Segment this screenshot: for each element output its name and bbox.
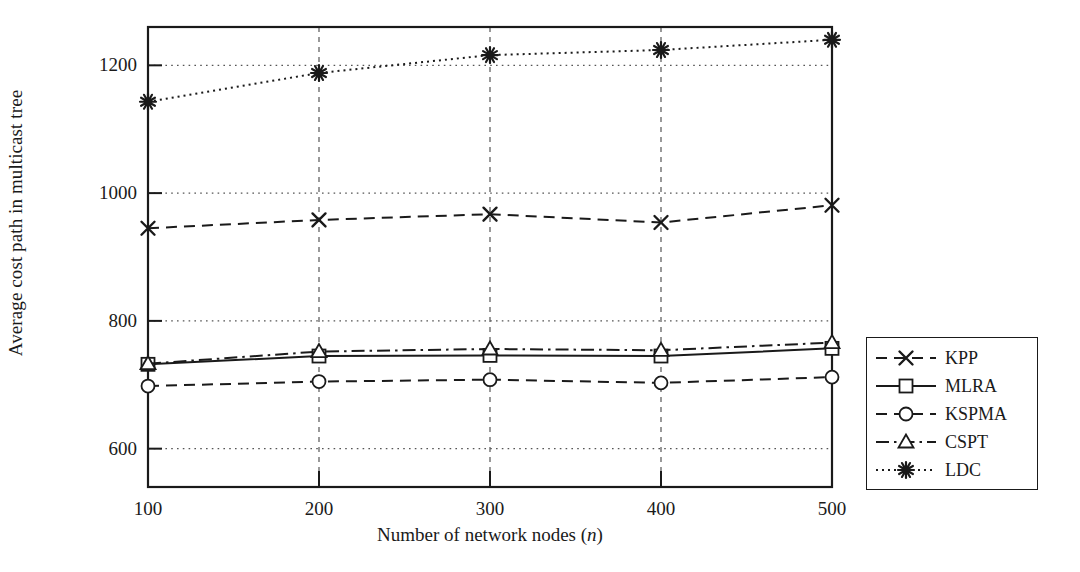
legend-swatch-x-icon [874, 347, 938, 369]
marker-square [900, 380, 913, 393]
legend-label: CSPT [938, 433, 988, 451]
chart-canvas [148, 27, 832, 487]
legend-item-cspt[interactable]: CSPT [867, 428, 1037, 456]
marker-asterisk [311, 65, 327, 81]
legend-item-ldc[interactable]: LDC [867, 456, 1037, 484]
x-axis-label-prefix: Number of network nodes ( [377, 524, 587, 545]
legend-swatch-triangle-icon [874, 431, 938, 453]
legend-item-mlra[interactable]: MLRA [867, 372, 1037, 400]
legend-swatch-asterisk-icon [874, 459, 938, 481]
y-axis-label: Average cost path in multicast tree [5, 0, 27, 572]
plot-area: 60080010001200100200300400500 [148, 27, 832, 487]
y-tick-label: 800 [109, 310, 138, 332]
figure-container: 60080010001200100200300400500 Average co… [0, 0, 1080, 572]
marker-asterisk [482, 47, 498, 63]
marker-asterisk [140, 94, 156, 110]
legend-label: KSPMA [938, 405, 1007, 423]
marker-circle [900, 408, 913, 421]
legend-sample-ldc [874, 459, 938, 481]
legend-sample-kspma [874, 403, 938, 425]
x-axis-label-suffix: ) [597, 524, 603, 545]
marker-circle [313, 375, 326, 388]
legend-sample-cspt [874, 431, 938, 453]
legend-item-kpp[interactable]: KPP [867, 344, 1037, 372]
y-tick-label: 1200 [99, 54, 137, 76]
legend-swatch-circle-icon [874, 403, 938, 425]
x-tick-label: 200 [305, 498, 334, 520]
x-tick-label: 300 [476, 498, 505, 520]
marker-asterisk [653, 42, 669, 58]
x-axis-label: Number of network nodes (n) [148, 524, 832, 546]
marker-circle [826, 371, 839, 384]
y-tick-label: 1000 [99, 182, 137, 204]
y-tick-label: 600 [109, 438, 138, 460]
x-tick-label: 400 [647, 498, 676, 520]
marker-circle [142, 380, 155, 393]
legend-swatch-square-icon [874, 375, 938, 397]
marker-circle [484, 373, 497, 386]
legend-box: KPPMLRAKSPMACSPTLDC [866, 337, 1038, 490]
legend-label: MLRA [938, 377, 997, 395]
legend-sample-mlra [874, 375, 938, 397]
legend-label: LDC [938, 461, 981, 479]
x-tick-label: 500 [818, 498, 847, 520]
legend-label: KPP [938, 349, 978, 367]
x-tick-label: 100 [134, 498, 163, 520]
marker-asterisk [898, 462, 914, 478]
marker-circle [655, 376, 668, 389]
marker-asterisk [824, 32, 840, 48]
x-axis-label-variable: n [587, 524, 597, 545]
legend-sample-kpp [874, 347, 938, 369]
legend-item-kspma[interactable]: KSPMA [867, 400, 1037, 428]
